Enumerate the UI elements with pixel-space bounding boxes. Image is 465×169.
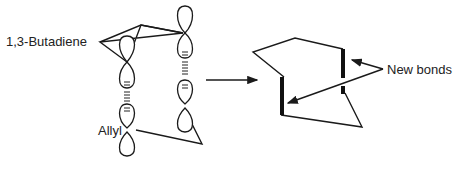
- cycloaddition-diagram: 1,3-Butadiene Allyl New bonds: [0, 0, 465, 169]
- butadiene-label: 1,3-Butadiene: [6, 34, 87, 49]
- allyl-label: Allyl: [98, 123, 122, 138]
- new-bond-right-lower: [341, 86, 345, 94]
- pointer-arrow-upper: [352, 60, 383, 69]
- reactants-group: 1,3-Butadiene Allyl: [6, 6, 202, 156]
- product-group: New bonds: [253, 38, 453, 127]
- new-bond-right-upper: [341, 49, 345, 78]
- bond-dashes-left: [124, 92, 130, 101]
- bond-dashes-right: [182, 62, 188, 74]
- orbital-column-right: [178, 6, 193, 132]
- new-bonds-label: New bonds: [387, 62, 453, 77]
- pointer-arrow-lower: [288, 69, 383, 103]
- new-bond-left: [280, 77, 284, 115]
- product-ring: [253, 38, 343, 77]
- orbital-column-left: [120, 36, 135, 156]
